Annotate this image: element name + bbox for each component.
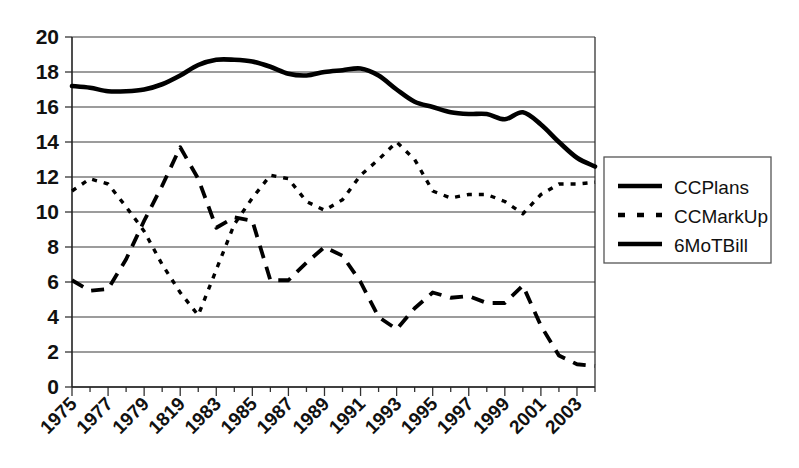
y-tick-label-14: 14 xyxy=(36,130,60,153)
y-tick-label-10: 10 xyxy=(36,200,59,223)
y-tick-label-2: 2 xyxy=(47,340,59,363)
y-tick-label-0: 0 xyxy=(47,375,59,398)
y-tick-label-8: 8 xyxy=(47,235,59,258)
line-chart: 02468101214161820 1975197719791819198319… xyxy=(0,0,799,468)
y-tick-label-18: 18 xyxy=(36,60,60,83)
y-tick-label-16: 16 xyxy=(36,95,59,118)
y-tick-label-6: 6 xyxy=(47,270,59,293)
chart-figure: 02468101214161820 1975197719791819198319… xyxy=(0,0,799,468)
y-tick-label-20: 20 xyxy=(36,25,59,48)
y-tick-label-12: 12 xyxy=(36,165,59,188)
legend-label-ccmarkup: CCMarkUp xyxy=(674,206,768,227)
y-tick-label-4: 4 xyxy=(47,305,59,328)
legend-label-ccplans: CCPlans xyxy=(674,177,749,198)
legend-label-6motbill: 6MoTBill xyxy=(674,235,748,256)
chart-background xyxy=(0,0,799,468)
